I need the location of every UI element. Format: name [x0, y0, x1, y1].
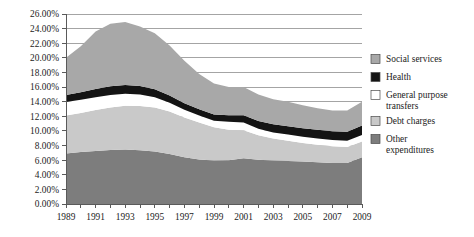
y-tick-label: 10.00%	[30, 126, 59, 136]
legend-swatch-debt-charges	[371, 117, 380, 126]
y-tick-label: 2.00%	[35, 185, 59, 195]
y-tick-label: 12.00%	[30, 112, 59, 122]
stacked-area-chart: 0.00%2.00%4.00%6.00%8.00%10.00%12.00%14.…	[0, 0, 474, 237]
legend-label: transfers	[386, 101, 419, 111]
legend-label: Social services	[386, 54, 442, 64]
y-tick-label: 4.00%	[35, 170, 59, 180]
legend-label: Other	[386, 134, 408, 144]
legend-swatch-other-expenditures	[371, 135, 380, 144]
y-tick-label: 16.00%	[30, 82, 59, 92]
y-tick-label: 20.00%	[30, 53, 59, 63]
y-tick-label: 24.00%	[30, 24, 59, 34]
y-tick-label: 6.00%	[35, 156, 59, 166]
x-tick-label: 1999	[205, 212, 224, 222]
x-axis-tick-labels: 1989199119931995199719992001200320052007…	[57, 212, 372, 222]
y-tick-label: 22.00%	[30, 39, 59, 49]
x-tick-label: 1995	[145, 212, 164, 222]
x-tick-label: 1993	[116, 212, 135, 222]
y-tick-label: 26.00%	[30, 9, 59, 19]
legend-swatch-social-services	[371, 55, 380, 64]
chart-container: 0.00%2.00%4.00%6.00%8.00%10.00%12.00%14.…	[0, 0, 474, 237]
y-tick-label: 14.00%	[30, 97, 59, 107]
plot-area: 0.00%2.00%4.00%6.00%8.00%10.00%12.00%14.…	[30, 9, 372, 222]
y-tick-label: 0.00%	[35, 199, 59, 209]
x-tick-label: 1991	[86, 212, 105, 222]
x-tick-label: 2007	[323, 212, 342, 222]
x-tick-label: 1989	[57, 212, 76, 222]
y-tick-label: 18.00%	[30, 68, 59, 78]
legend-label: expenditures	[386, 145, 434, 155]
x-axis-ticks	[66, 204, 362, 208]
x-tick-label: 1997	[175, 212, 194, 222]
legend-label: Health	[386, 72, 411, 82]
x-tick-label: 2009	[353, 212, 372, 222]
y-tick-label: 8.00%	[35, 141, 59, 151]
legend-swatch-health	[371, 73, 380, 82]
legend-label: General purpose	[386, 90, 448, 100]
x-tick-label: 2005	[293, 212, 312, 222]
x-tick-label: 2001	[234, 212, 253, 222]
legend-swatch-general-purpose-transfers	[371, 91, 380, 100]
x-tick-label: 2003	[264, 212, 283, 222]
legend-label: Debt charges	[386, 116, 435, 126]
